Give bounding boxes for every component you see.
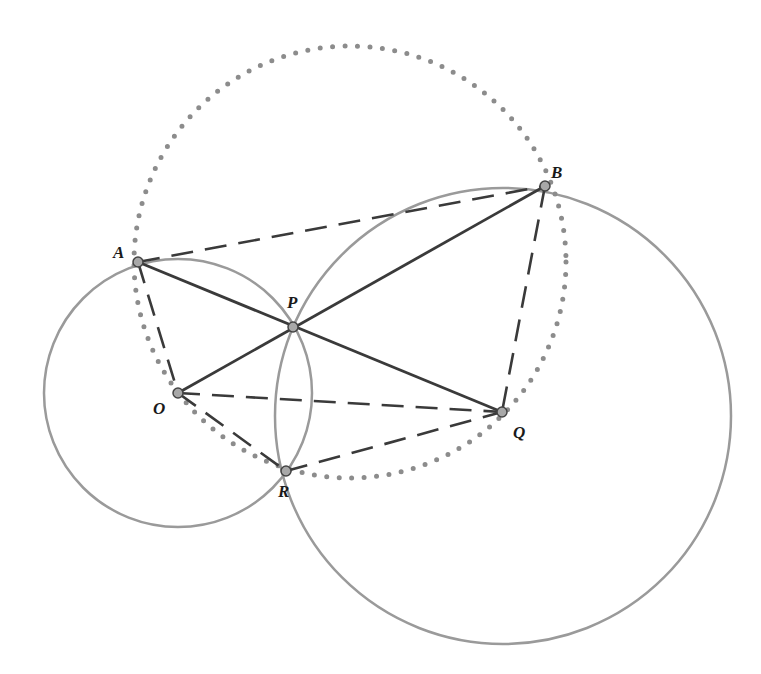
point-q [497, 407, 507, 417]
geometry-diagram: ABPOQR [0, 0, 761, 674]
point-b [540, 181, 550, 191]
point-p [288, 322, 298, 332]
label-a: A [112, 243, 124, 262]
label-r: R [277, 482, 289, 501]
solid-segment-ob [178, 186, 545, 393]
label-q: Q [513, 423, 525, 442]
point-o [173, 388, 183, 398]
dashed-segment-or [178, 393, 286, 471]
label-p: P [286, 293, 298, 312]
point-a [133, 257, 143, 267]
solid-segment-aq [138, 262, 502, 412]
dashed-segment-bq [502, 186, 545, 412]
label-b: B [550, 163, 562, 182]
label-o: O [153, 399, 165, 418]
point-r [281, 466, 291, 476]
dashed-segment-ab [138, 186, 545, 262]
dashed-segment-oq [178, 393, 502, 412]
